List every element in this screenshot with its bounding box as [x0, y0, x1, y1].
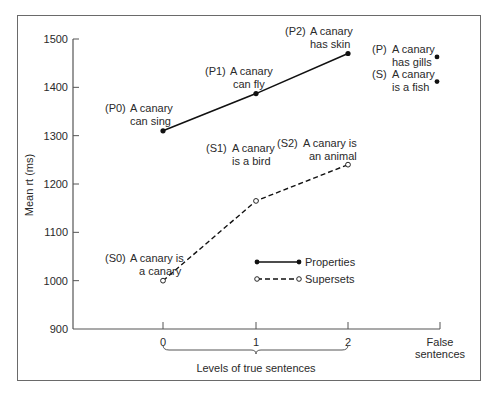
label-p0-text: can sing	[130, 115, 171, 127]
label-p0-text: A canary	[130, 102, 173, 114]
legend-properties-marker	[297, 260, 302, 265]
label-s0-text: A canary is	[130, 252, 184, 264]
false-P-point	[435, 54, 440, 59]
label-p0-tag: (P0)	[105, 102, 126, 114]
legend-properties-marker	[255, 260, 260, 265]
properties-point	[253, 91, 258, 96]
label-p2-text: A canary	[310, 25, 353, 37]
y-tick-label: 1100	[44, 226, 68, 238]
label-s2-text: an animal	[309, 150, 357, 162]
label-s2-text: A canary is	[303, 137, 357, 149]
label-false-P-text: has gills	[392, 56, 432, 68]
label-p2-tag: (P2)	[285, 25, 306, 37]
legend-supersets-marker	[297, 277, 302, 282]
y-tick-label: 1500	[44, 33, 68, 45]
label-s1-text: is a bird	[232, 155, 271, 167]
x-tick-label-false: False	[427, 336, 454, 348]
y-tick-label: 1300	[44, 130, 68, 142]
properties-point	[160, 128, 165, 133]
label-s1-tag: (S1)	[206, 142, 227, 154]
y-tick-label: 1400	[44, 81, 68, 93]
y-tick-label: 1000	[44, 275, 68, 287]
legend-properties-label: Properties	[305, 256, 356, 268]
label-s1-text: A canary	[232, 142, 275, 154]
label-false-S-tag: (S)	[372, 68, 387, 80]
label-p2-text: has skin	[310, 38, 350, 50]
supersets-point	[254, 199, 259, 204]
label-p1-text: A canary	[230, 65, 273, 77]
legend-supersets-label: Supersets	[305, 273, 355, 285]
label-false-S-text: is a fish	[392, 81, 429, 93]
label-s0-text: a canary	[139, 265, 182, 277]
false-S-point	[435, 79, 440, 84]
label-false-S-text: A canary	[392, 68, 435, 80]
chart-canvas: 150014001300120011001000900Mean rt (ms)0…	[0, 0, 499, 395]
properties-point	[345, 51, 350, 56]
label-false-P-tag: (P)	[372, 43, 387, 55]
supersets-point	[346, 162, 351, 167]
x-tick-label: 1	[253, 336, 259, 348]
label-false-P-text: A canary	[392, 43, 435, 55]
label-p1-tag: (P1)	[205, 65, 226, 77]
label-s2-tag: (S2)	[277, 137, 298, 149]
x-axis-label: Levels of true sentences	[196, 362, 316, 374]
label-p1-text: can fly	[233, 78, 265, 90]
x-tick-label-false: sentences	[415, 348, 466, 360]
legend-supersets-marker	[255, 277, 260, 282]
y-tick-label: 900	[50, 323, 68, 335]
y-tick-label: 1200	[44, 178, 68, 190]
supersets-point	[161, 278, 166, 283]
y-axis-label: Mean rt (ms)	[23, 154, 35, 216]
label-s0-tag: (S0)	[105, 252, 126, 264]
